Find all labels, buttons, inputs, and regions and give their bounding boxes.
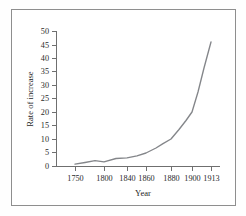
x-tick-label: 1860	[138, 174, 154, 183]
y-tick-label: 15	[41, 121, 49, 130]
y-tick-label: 35	[41, 67, 49, 76]
x-axis-ticks	[76, 167, 212, 172]
figure-container: 50 45 40 35 30 25 20 15 10 5 0 1750 1800…	[0, 0, 246, 216]
x-tick-label: 1800	[96, 174, 112, 183]
y-axis-tick-labels: 50 45 40 35 30 25 20 15 10 5 0	[41, 27, 49, 171]
x-tick-label: 1900	[184, 174, 200, 183]
y-tick-label: 40	[41, 54, 49, 63]
x-tick-label: 1750	[67, 174, 83, 183]
line-chart: 50 45 40 35 30 25 20 15 10 5 0 1750 1800…	[0, 0, 246, 216]
y-tick-label: 45	[41, 41, 49, 50]
y-tick-label: 5	[45, 148, 49, 157]
y-tick-label: 30	[41, 81, 49, 90]
y-tick-label: 20	[41, 108, 49, 117]
y-tick-label: 50	[41, 27, 49, 36]
x-tick-label: 1913	[203, 174, 219, 183]
x-axis-tick-labels: 1750 1800 1840 1860 1880 1900 1913	[67, 174, 219, 183]
y-tick-label: 25	[41, 94, 49, 103]
y-tick-label: 10	[41, 135, 49, 144]
series-line-rate-of-increase	[75, 42, 211, 164]
y-axis-ticks	[52, 32, 57, 167]
y-axis-title: Rate of increase	[25, 71, 35, 127]
x-tick-label: 1880	[163, 174, 179, 183]
x-axis-title: Year	[135, 188, 151, 198]
y-tick-label: 0	[45, 162, 49, 171]
x-tick-label: 1840	[119, 174, 135, 183]
